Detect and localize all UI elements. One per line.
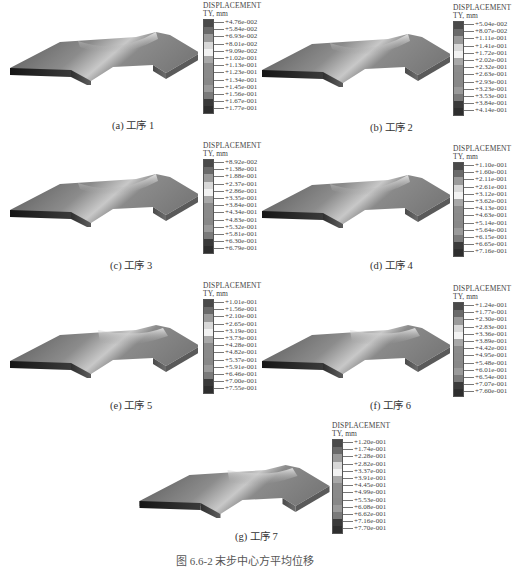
legend-color-swatch	[204, 189, 213, 196]
color-legend: DISPLACEMENT TY, mm +1.24e-001+1.77e-001…	[453, 285, 511, 302]
legend-tick-line	[464, 215, 474, 216]
legend-color-swatch	[454, 80, 463, 87]
displacement-contour-model	[260, 318, 450, 378]
legend-tick-line	[464, 370, 474, 371]
legend-color-swatch	[333, 526, 342, 533]
legend-color-swatch	[204, 239, 213, 246]
legend-tick-line	[464, 237, 474, 238]
subfigure-caption: (c) 工序 3	[110, 257, 152, 272]
color-legend: DISPLACEMENT TY, mm +4.76e-002+5.84e-002…	[203, 2, 261, 19]
legend-tick-line	[343, 478, 353, 479]
legend-color-swatch	[333, 519, 342, 526]
color-legend: DISPLACEMENT TY, mm +1.01e-001+1.56e-001…	[203, 282, 261, 299]
subfigure-caption: (b) 工序 2	[370, 119, 413, 134]
legend-tick-line	[214, 234, 224, 235]
legend-color-swatch	[454, 185, 463, 192]
legend-color-swatch	[204, 358, 213, 365]
legend-color-swatch	[204, 314, 213, 321]
legend-color-swatch	[204, 203, 213, 210]
legend-tick-line	[214, 324, 224, 325]
color-legend: DISPLACEMENT TY, mm +1.20e-001+1.74e-001…	[332, 422, 390, 439]
legend-color-swatch	[454, 65, 463, 72]
legend-tick-line	[214, 51, 224, 52]
legend-color-swatch	[333, 476, 342, 483]
legend-tick-line	[464, 312, 474, 313]
legend-color-bar	[203, 19, 214, 114]
legend-color-swatch	[204, 49, 213, 56]
legend-color-swatch	[204, 56, 213, 63]
legend-color-swatch	[204, 329, 213, 336]
legend-color-swatch	[204, 225, 213, 232]
legend-color-swatch	[454, 101, 463, 108]
legend-tick-line	[214, 367, 224, 368]
legend-tick-line	[464, 103, 474, 104]
legend-tick-line	[464, 391, 474, 392]
displacement-contour-model	[260, 168, 450, 228]
legend-tick: +1.77e-001	[214, 105, 257, 112]
legend-unit: TY, mm	[453, 12, 511, 20]
legend-unit: TY, mm	[332, 430, 390, 438]
legend-color-swatch	[204, 386, 213, 393]
legend-tick-line	[214, 374, 224, 375]
legend-color-swatch	[454, 249, 463, 256]
legend-tick-line	[464, 377, 474, 378]
legend-tick-line	[343, 521, 353, 522]
legend-tick-line	[464, 60, 474, 61]
legend-tick-line	[214, 44, 224, 45]
legend-color-swatch	[454, 36, 463, 43]
legend-tick-line	[464, 24, 474, 25]
legend-tick-line	[464, 110, 474, 111]
legend-tick-line	[343, 500, 353, 501]
legend-tick-line	[214, 72, 224, 73]
legend-tick-label: +4.14e-001	[475, 107, 507, 114]
legend-color-bar	[203, 299, 214, 394]
legend-color-swatch	[204, 343, 213, 350]
legend-color-swatch	[454, 325, 463, 332]
legend-color-swatch	[204, 174, 213, 181]
legend-color-swatch	[454, 346, 463, 353]
legend-color-swatch	[204, 196, 213, 203]
legend-tick-line	[214, 169, 224, 170]
legend-tick: +7.16e-001	[464, 248, 507, 255]
legend-tick-line	[464, 355, 474, 356]
panel-f: DISPLACEMENT TY, mm +1.24e-001+1.77e-001…	[260, 280, 520, 415]
legend-tick: +6.79e-001	[214, 245, 257, 252]
legend-tick-line	[214, 108, 224, 109]
legend-tick-line	[464, 223, 474, 224]
legend-unit: TY, mm	[203, 150, 261, 158]
legend-color-swatch	[454, 317, 463, 324]
legend-color-swatch	[454, 353, 463, 360]
legend-tick-line	[343, 456, 353, 457]
legend-color-swatch	[204, 232, 213, 239]
legend-tick-line	[343, 485, 353, 486]
legend-color-swatch	[204, 182, 213, 189]
legend-color-swatch	[333, 447, 342, 454]
color-legend: DISPLACEMENT TY, mm +5.04e-002+8.07e-002…	[453, 4, 511, 21]
legend-color-swatch	[454, 58, 463, 65]
legend-tick: +7.55e-001	[214, 385, 257, 392]
subfigure-caption: (g) 工序 7	[235, 528, 278, 543]
legend-tick-line	[343, 492, 353, 493]
legend-tick-line	[214, 80, 224, 81]
legend-tick-line	[464, 201, 474, 202]
legend-tick-line	[464, 31, 474, 32]
legend-tick-line	[214, 345, 224, 346]
legend-unit: TY, mm	[453, 293, 511, 301]
legend-tick-label: +7.16e-001	[475, 248, 507, 255]
legend-tick-label: +7.70e-001	[354, 525, 386, 532]
legend-tick-line	[464, 53, 474, 54]
legend-tick-line	[464, 251, 474, 252]
legend-tick-line	[464, 194, 474, 195]
legend-tick-line	[214, 191, 224, 192]
legend-tick-line	[464, 179, 474, 180]
legend-color-swatch	[454, 242, 463, 249]
legend-tick-line	[464, 334, 474, 335]
legend-tick-line	[464, 244, 474, 245]
legend-color-swatch	[454, 375, 463, 382]
legend-tick-line	[464, 67, 474, 68]
legend-tick-line	[214, 388, 224, 389]
legend-color-swatch	[454, 361, 463, 368]
legend-color-swatch	[333, 505, 342, 512]
legend-tick-line	[214, 331, 224, 332]
legend-tick-line	[214, 316, 224, 317]
